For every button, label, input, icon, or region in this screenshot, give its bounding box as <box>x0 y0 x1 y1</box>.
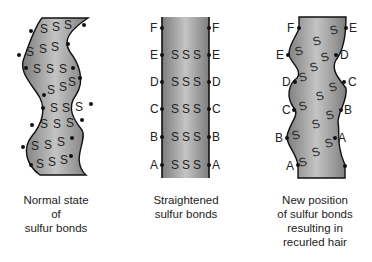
svg-text:S: S <box>33 62 41 76</box>
svg-text:S: S <box>47 83 55 97</box>
label-left-F: F <box>150 21 157 35</box>
svg-text:S: S <box>39 42 47 56</box>
svg-text:S: S <box>51 40 59 54</box>
svg-text:C: C <box>150 102 159 116</box>
svg-text:B: B <box>275 131 283 145</box>
svg-text:D: D <box>212 75 221 89</box>
svg-text:S: S <box>193 75 201 89</box>
svg-text:A: A <box>212 158 220 172</box>
recurled-hair-strand: FED CBA EDC BA S S S S S S S S S S S S S… <box>275 17 357 178</box>
svg-text:S: S <box>182 130 190 144</box>
svg-text:A: A <box>286 159 294 173</box>
svg-text:S: S <box>46 62 54 76</box>
svg-text:D: D <box>150 75 159 89</box>
svg-text:S: S <box>171 158 179 172</box>
svg-text:D: D <box>340 48 349 62</box>
svg-text:S: S <box>171 75 179 89</box>
svg-text:B: B <box>150 130 158 144</box>
straightened-hair-strand: F EDC BA FED CBA SSS SSS SSS SSS SSS <box>150 17 221 178</box>
svg-text:D: D <box>282 75 291 89</box>
svg-text:S: S <box>75 100 83 114</box>
svg-text:S: S <box>36 157 44 171</box>
svg-text:S: S <box>171 130 179 144</box>
svg-text:C: C <box>212 102 221 116</box>
caption-straightened: Straightened sulfur bonds <box>136 193 236 221</box>
svg-text:S: S <box>193 102 201 116</box>
svg-text:S: S <box>193 130 201 144</box>
svg-text:S: S <box>59 80 67 94</box>
svg-text:S: S <box>182 48 190 62</box>
svg-text:S: S <box>60 153 68 167</box>
svg-text:S: S <box>182 75 190 89</box>
svg-text:S: S <box>57 135 65 149</box>
svg-text:C: C <box>282 103 291 117</box>
svg-text:A: A <box>338 131 346 145</box>
svg-text:S: S <box>62 101 70 115</box>
svg-text:S: S <box>182 102 190 116</box>
svg-text:C: C <box>348 75 357 89</box>
svg-text:E: E <box>349 21 357 35</box>
svg-text:A: A <box>150 158 158 172</box>
svg-text:S: S <box>193 48 201 62</box>
svg-text:S: S <box>68 75 76 89</box>
svg-text:S: S <box>40 22 48 36</box>
normal-hair-strand: SSS SSS SSS SSS SSS SSS SSS SSS <box>17 18 93 175</box>
svg-text:F: F <box>287 21 294 35</box>
svg-text:S: S <box>171 102 179 116</box>
svg-text:S: S <box>66 116 74 130</box>
svg-text:B: B <box>212 130 220 144</box>
svg-text:E: E <box>150 48 158 62</box>
svg-text:E: E <box>276 48 284 62</box>
svg-text:E: E <box>212 48 220 62</box>
svg-text:S: S <box>52 20 60 34</box>
caption-recurled: New position of sulfur bonds resulting i… <box>262 193 368 249</box>
svg-text:B: B <box>344 103 352 117</box>
svg-text:S: S <box>171 48 179 62</box>
svg-text:F: F <box>212 21 219 35</box>
svg-text:S: S <box>53 117 61 131</box>
svg-text:S: S <box>40 117 48 131</box>
caption-normal: Normal state of sulfur bonds <box>8 193 104 235</box>
svg-text:S: S <box>50 101 58 115</box>
svg-text:S: S <box>182 158 190 172</box>
svg-text:S: S <box>193 158 201 172</box>
svg-text:S: S <box>44 138 52 152</box>
svg-text:S: S <box>31 139 39 153</box>
svg-text:S: S <box>64 18 72 32</box>
svg-text:S: S <box>26 45 34 59</box>
svg-text:S: S <box>48 155 56 169</box>
svg-text:S: S <box>59 62 67 76</box>
